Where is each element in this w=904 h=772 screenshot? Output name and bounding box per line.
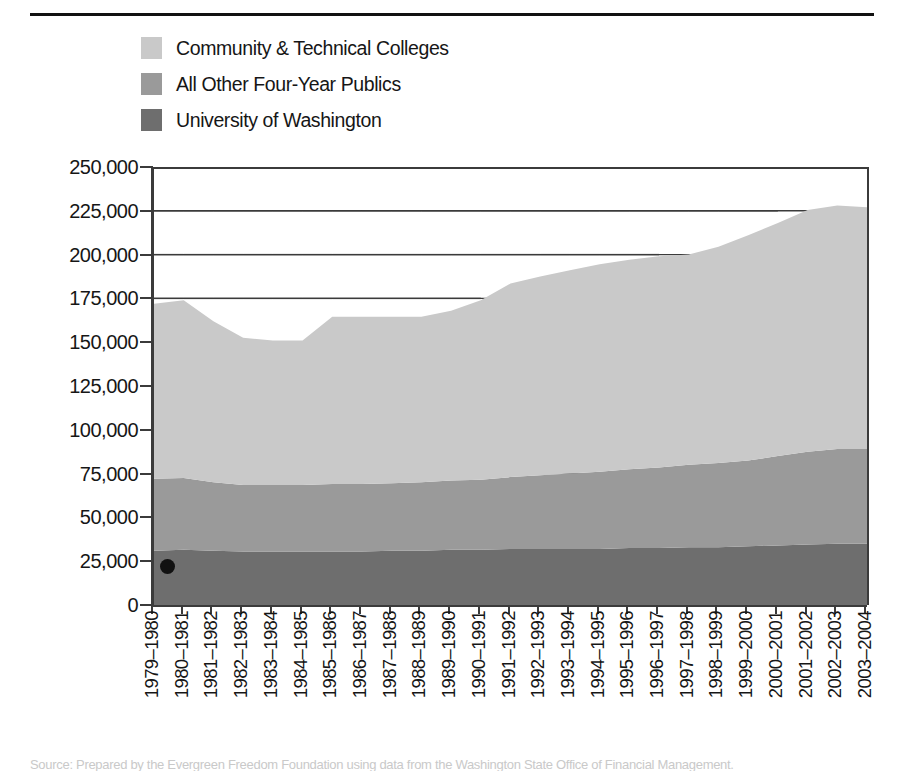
x-axis-tick-label: 1991–1992	[498, 611, 520, 698]
y-axis-tick-label: 150,000	[0, 331, 138, 354]
legend-swatch-icon	[141, 37, 162, 59]
x-axis-tick-label: 1989–1990	[438, 611, 460, 698]
x-axis-tick-label: 1983–1984	[260, 611, 282, 698]
chart-page: Community & Technical CollegesAll Other …	[0, 0, 904, 772]
x-axis-tick-label: 1998–1999	[705, 611, 727, 698]
x-axis-tick-label: 1999–2000	[735, 611, 757, 698]
y-axis-tick-label: 25,000	[0, 550, 138, 573]
y-axis-tick-label: 0	[0, 594, 138, 617]
x-axis-tick-label: 1985–1986	[319, 611, 341, 698]
legend-item: All Other Four-Year Publics	[141, 66, 449, 102]
legend-label: Community & Technical Colleges	[176, 37, 449, 60]
x-axis-tick-label: 1993–1994	[557, 611, 579, 698]
x-axis-tick-label: 1996–1997	[646, 611, 668, 698]
x-axis-tick-label: 1992–1993	[527, 611, 549, 698]
legend-item: Community & Technical Colleges	[141, 30, 449, 66]
x-axis-tick-label: 1990–1991	[468, 611, 490, 698]
x-axis-line	[152, 605, 867, 607]
legend-item: University of Washington	[141, 102, 449, 138]
stacked-area-plot	[154, 167, 867, 605]
y-axis-tick-label: 175,000	[0, 287, 138, 310]
area-series	[154, 206, 867, 485]
x-axis-tick-label: 1988–1989	[408, 611, 430, 698]
x-axis-tick-label: 1982–1983	[230, 611, 252, 698]
plot-area	[152, 167, 869, 605]
y-axis-tick-label: 75,000	[0, 462, 138, 485]
x-axis-tick-label: 1997–1998	[676, 611, 698, 698]
legend-label: University of Washington	[176, 109, 381, 132]
chart-legend: Community & Technical CollegesAll Other …	[141, 30, 449, 138]
x-axis-tick-label: 1987–1988	[379, 611, 401, 698]
x-axis-tick-label: 1994–1995	[587, 611, 609, 698]
x-axis-tick-label: 2001–2002	[795, 611, 817, 698]
area-series	[154, 544, 867, 605]
header-rule	[30, 13, 874, 16]
x-axis-tick-label: 1981–1982	[200, 611, 222, 698]
y-axis-tick-label: 50,000	[0, 506, 138, 529]
figure-caption: Source: Prepared by the Evergreen Freedo…	[30, 757, 870, 771]
y-axis-tick-label: 225,000	[0, 199, 138, 222]
x-axis-tick-label: 1984–1985	[290, 611, 312, 698]
x-axis-tick-label: 1979–1980	[141, 611, 163, 698]
x-axis-tick-label: 1986–1987	[349, 611, 371, 698]
x-axis-tick-label: 1995–1996	[616, 611, 638, 698]
y-axis-tick-label: 100,000	[0, 418, 138, 441]
legend-swatch-icon	[141, 73, 162, 95]
x-axis-tick-label: 2002–2003	[824, 611, 846, 698]
y-axis-tick-label: 250,000	[0, 156, 138, 179]
y-axis-tick-label: 125,000	[0, 375, 138, 398]
y-axis-tick-label: 200,000	[0, 243, 138, 266]
legend-swatch-icon	[141, 109, 162, 131]
legend-label: All Other Four-Year Publics	[176, 73, 401, 96]
x-axis-tick-label: 2003–2004	[854, 611, 876, 698]
x-axis-tick-label: 1980–1981	[171, 611, 193, 698]
x-axis-tick-label: 2000–2001	[765, 611, 787, 698]
